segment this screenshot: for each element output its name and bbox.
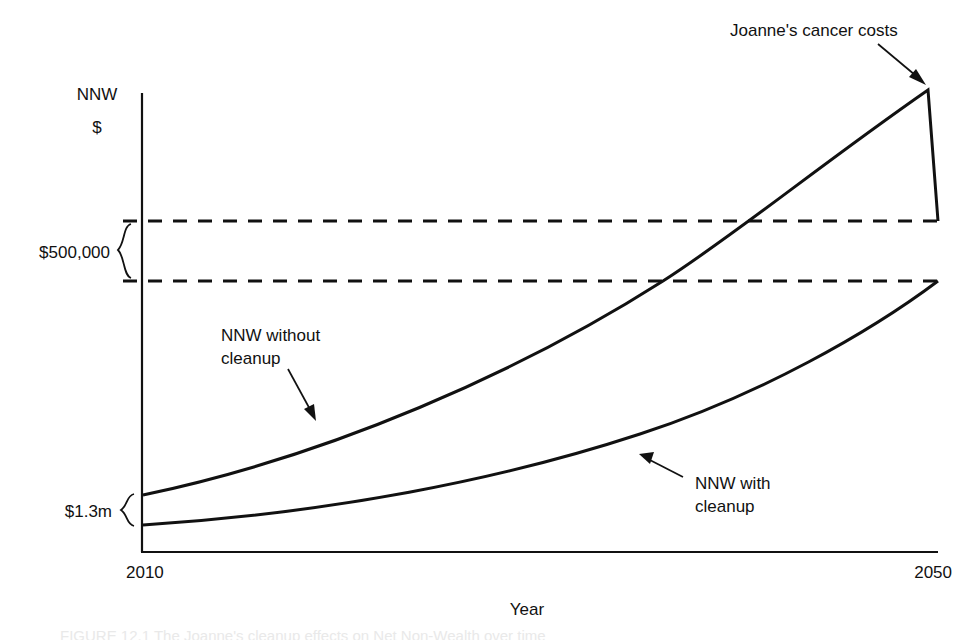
y-axis-units-label: $: [92, 118, 102, 137]
annotation-without-cleanup-line2: cleanup: [221, 349, 281, 368]
x-tick-label-start: 2010: [126, 563, 164, 582]
x-tick-label-end: 2050: [914, 563, 952, 582]
chart-background: [0, 0, 965, 640]
y-axis-label: NNW: [77, 85, 118, 104]
chart-figure: NNW $ $500,000 $1.3m Joanne's cancer cos…: [0, 0, 965, 640]
annotation-with-cleanup-line2: cleanup: [695, 497, 755, 516]
annotation-with-cleanup-line1: NNW with: [695, 474, 771, 493]
annotation-cancer-costs-label: Joanne's cancer costs: [730, 21, 898, 40]
nnw-line-chart: NNW $ $500,000 $1.3m Joanne's cancer cos…: [0, 0, 965, 640]
annotation-without-cleanup-line1: NNW without: [221, 326, 320, 345]
bracket-500k-label: $500,000: [39, 243, 110, 262]
x-axis-label: Year: [510, 600, 545, 619]
bracket-13m-label: $1.3m: [65, 502, 112, 521]
figure-caption-cropped: FIGURE 12.1 The Joanne's cleanup effects…: [60, 628, 940, 640]
